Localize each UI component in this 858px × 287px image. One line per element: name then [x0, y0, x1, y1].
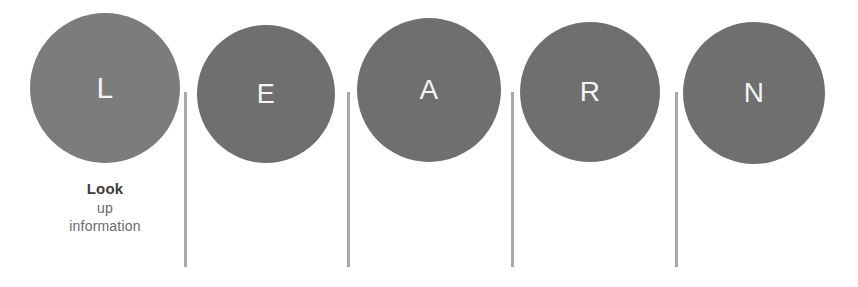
divider-1 — [184, 92, 187, 267]
divider-4 — [675, 92, 678, 267]
divider-2 — [347, 92, 350, 267]
circle-letter-text-e: E — [257, 81, 276, 108]
circle-letter-text-r: R — [580, 78, 601, 106]
circle-letter-text-a: A — [419, 76, 438, 104]
circle-letter-r[interactable]: R — [520, 22, 660, 162]
learn-acronym-diagram: L Look up information E A R N — [0, 0, 858, 287]
circle-letter-text-n: N — [744, 79, 765, 107]
divider-3 — [511, 92, 514, 267]
caption-look-up-information: Look up information — [30, 179, 180, 236]
circle-letter-e[interactable]: E — [197, 25, 335, 163]
caption-line-bold: Look — [30, 179, 180, 199]
caption-line-three: information — [30, 217, 180, 235]
caption-line-two: up — [30, 199, 180, 217]
circle-letter-l[interactable]: L — [30, 13, 180, 163]
circle-letter-text-l: L — [96, 73, 113, 103]
circle-letter-n[interactable]: N — [683, 22, 825, 164]
circle-letter-a[interactable]: A — [357, 18, 501, 162]
